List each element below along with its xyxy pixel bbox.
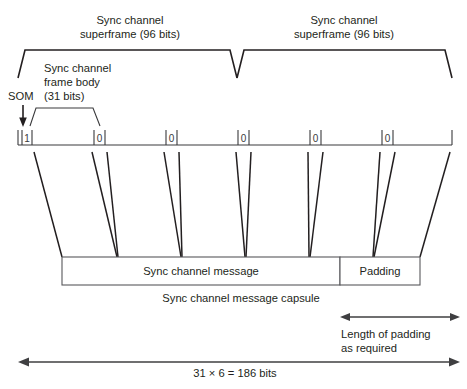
bit-cell-2: 0 bbox=[166, 130, 177, 145]
capsule-caption: Sync channel message capsule bbox=[162, 292, 319, 304]
bit-cell-0: 1 bbox=[22, 130, 32, 145]
bit-value-5: 0 bbox=[385, 133, 391, 144]
bit-value-2: 0 bbox=[169, 133, 175, 144]
total-length-arrow bbox=[18, 358, 460, 367]
bit-value-4: 0 bbox=[313, 133, 319, 144]
sync-channel-message-label: Sync channel message bbox=[143, 265, 259, 277]
padding-measure-label-line2: as required bbox=[341, 342, 397, 354]
padding-label: Padding bbox=[359, 265, 400, 277]
bit-value-3: 0 bbox=[241, 133, 247, 144]
frame-body-label-line2: frame body bbox=[44, 76, 100, 88]
total-length-label: 31 × 6 = 186 bits bbox=[193, 367, 277, 379]
superframe-right-label-line1: Sync channel bbox=[310, 14, 377, 26]
padding-measure-label-line1: Length of padding bbox=[341, 328, 431, 340]
frame-body-label-line1: Sync channel bbox=[44, 62, 111, 74]
superframe-left-label-line1: Sync channel bbox=[96, 14, 163, 26]
frame-body-label-line3: (31 bits) bbox=[44, 90, 85, 102]
padding-measure-arrow bbox=[340, 313, 460, 321]
superframe-brace-right bbox=[237, 50, 452, 78]
superframe-right-label-line2: superframe (96 bits) bbox=[294, 28, 394, 40]
diagram-canvas: Sync channel superframe (96 bits) Sync c… bbox=[0, 0, 467, 389]
bit-row: 1 0 0 0 0 0 bbox=[18, 130, 452, 145]
som-label: SOM bbox=[8, 90, 33, 102]
bit-value-0: 1 bbox=[24, 133, 30, 144]
bit-cell-3: 0 bbox=[238, 130, 249, 145]
superframe-left-label-line2: superframe (96 bits) bbox=[80, 28, 180, 40]
figure-container: Sync channel superframe (96 bits) Sync c… bbox=[0, 0, 467, 389]
bit-cell-1: 0 bbox=[94, 130, 105, 145]
bit-cell-5: 0 bbox=[382, 130, 393, 145]
frame-body-brace bbox=[30, 108, 100, 126]
connector-lines bbox=[34, 152, 450, 257]
bit-cell-4: 0 bbox=[310, 130, 321, 145]
bit-value-1: 0 bbox=[97, 133, 103, 144]
message-capsule-box: Sync channel message Padding bbox=[62, 257, 420, 285]
som-arrow-icon bbox=[19, 105, 27, 127]
